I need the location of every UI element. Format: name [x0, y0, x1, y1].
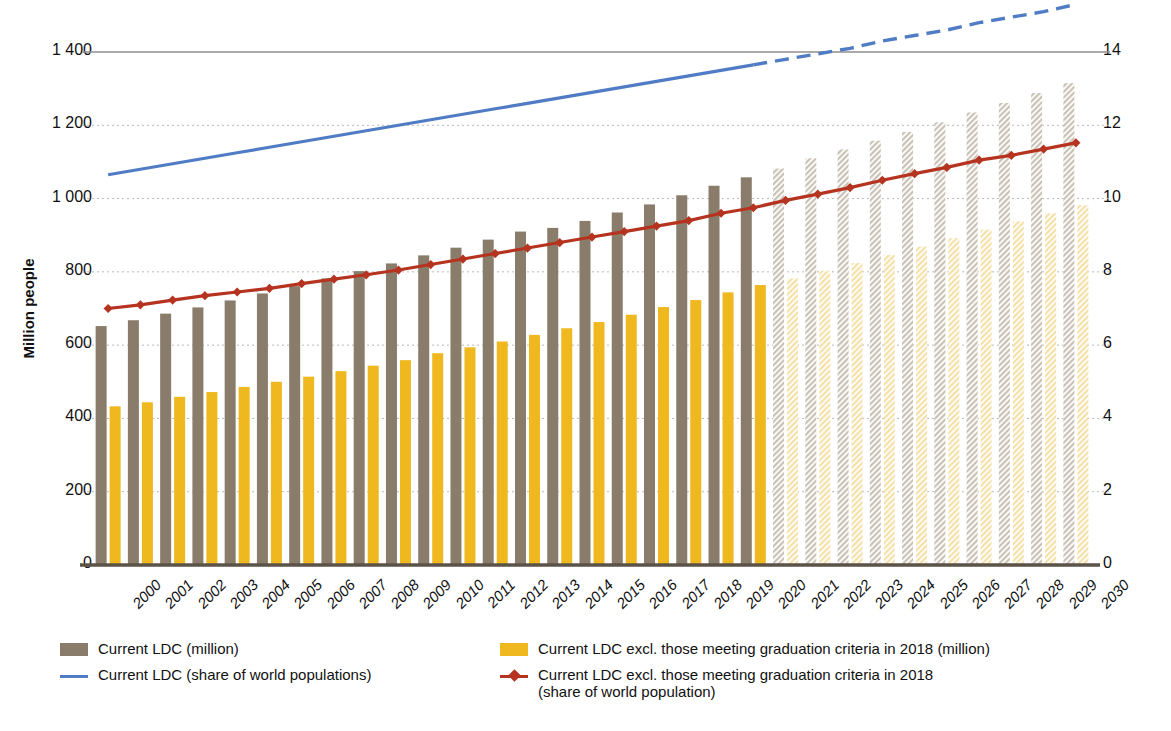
bar-gray — [612, 212, 623, 565]
bar-yellow — [1045, 213, 1056, 565]
bar-yellow — [755, 285, 766, 565]
bar-gray — [838, 149, 849, 565]
legend-item[interactable]: Current LDC excl. those meeting graduati… — [500, 640, 990, 657]
legend-label: Current LDC (share of world populations) — [98, 666, 371, 683]
line-red — [108, 143, 1076, 309]
bar-gray — [999, 103, 1010, 565]
legend-item[interactable]: Current LDC (million) — [60, 640, 371, 657]
bar-gray — [741, 177, 752, 565]
bar-yellow — [497, 341, 508, 565]
bar-gray — [321, 278, 332, 565]
bar-yellow — [174, 397, 185, 565]
line-blue-solid — [108, 65, 753, 175]
bar-yellow — [852, 263, 863, 565]
bar-gray — [676, 195, 687, 565]
bar-gray — [192, 307, 203, 565]
bar-yellow — [335, 371, 346, 565]
bar-gray — [1031, 93, 1042, 565]
bar-yellow — [529, 335, 540, 565]
bar-yellow — [1013, 221, 1024, 565]
legend-item[interactable]: Current LDC (share of world populations) — [60, 666, 371, 683]
bar-gray — [1063, 83, 1074, 565]
bar-yellow — [658, 307, 669, 565]
bar-gray — [160, 314, 171, 565]
bar-yellow — [239, 387, 250, 565]
bars — [96, 83, 1089, 565]
bar-gray — [902, 132, 913, 565]
bar-yellow — [916, 247, 927, 565]
bar-gray — [418, 255, 429, 565]
legend-column-1: Current LDC (million)Current LDC (share … — [60, 640, 371, 692]
bar-gray — [96, 326, 107, 565]
bar-gray — [934, 122, 945, 565]
bar-gray — [709, 186, 720, 565]
bar-gray — [289, 286, 300, 565]
legend-label: Current LDC (million) — [98, 640, 239, 657]
bar-yellow — [303, 377, 314, 565]
bar-yellow — [464, 347, 475, 565]
bar-gray — [450, 248, 461, 565]
bar-gray — [257, 293, 268, 565]
bar-gray — [354, 271, 365, 565]
bar-gray — [805, 158, 816, 565]
bar-yellow — [690, 300, 701, 565]
bar-yellow — [400, 360, 411, 565]
line-red-markers — [104, 138, 1081, 313]
bar-yellow — [787, 278, 798, 565]
bar-gray — [225, 300, 236, 565]
bar-gray — [128, 320, 139, 565]
bar-yellow — [981, 230, 992, 565]
bar-yellow — [561, 328, 572, 565]
bar-gray — [644, 204, 655, 565]
legend-label: Current LDC excl. those meeting graduati… — [538, 666, 933, 700]
legend-swatch-icon — [60, 643, 88, 656]
bar-yellow — [142, 402, 153, 565]
bar-gray — [386, 263, 397, 565]
legend-column-2: Current LDC excl. those meeting graduati… — [500, 640, 990, 709]
bar-yellow — [723, 292, 734, 565]
line-blue-dashed — [753, 4, 1076, 64]
legend-item[interactable]: Current LDC excl. those meeting graduati… — [500, 666, 990, 700]
bar-gray — [870, 141, 881, 565]
bar-yellow — [206, 392, 217, 565]
bar-gray — [547, 228, 558, 565]
bar-gray — [967, 112, 978, 565]
chart-container: Million people Percentage share of world… — [0, 0, 1171, 731]
plot-area — [0, 0, 1171, 731]
bar-gray — [515, 232, 526, 565]
bar-gray — [580, 221, 591, 565]
bar-yellow — [432, 353, 443, 565]
bar-yellow — [271, 382, 282, 565]
legend-line-icon — [60, 669, 88, 682]
legend-label: Current LDC excl. those meeting graduati… — [538, 640, 990, 657]
bar-gray — [773, 169, 784, 565]
bar-yellow — [884, 255, 895, 565]
legend-swatch-icon — [500, 643, 528, 656]
bar-yellow — [819, 271, 830, 565]
bar-yellow — [1077, 205, 1088, 565]
bar-yellow — [368, 366, 379, 565]
bar-yellow — [110, 406, 121, 565]
bar-yellow — [594, 322, 605, 565]
bar-gray — [483, 240, 494, 565]
bar-yellow — [626, 315, 637, 565]
legend-line-marker-icon — [500, 669, 528, 682]
bar-yellow — [948, 238, 959, 565]
